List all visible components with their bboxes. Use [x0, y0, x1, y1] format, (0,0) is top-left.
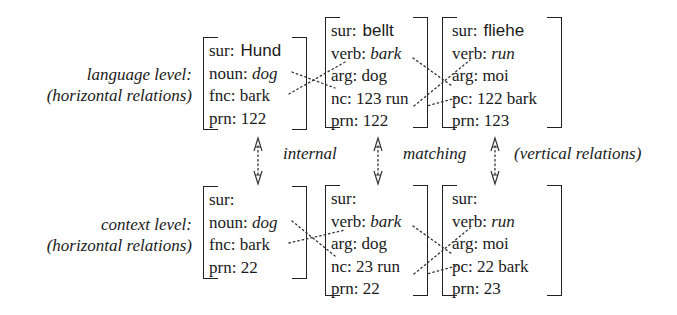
- dotted-link-fnc-verb: [289, 62, 345, 94]
- arrow-up-icon: [374, 138, 382, 151]
- dotted-link-ctx-nc-verb: [414, 228, 470, 274]
- relations-overlay: [0, 0, 677, 315]
- arrow-up-icon: [254, 138, 262, 151]
- dotted-link-verb-arg: [413, 58, 452, 86]
- dotted-link-ctx-noun-arg: [292, 221, 335, 256]
- dotted-link-ctx-verb-arg: [413, 226, 452, 254]
- arrow-up-icon: [491, 138, 499, 151]
- dotted-link-ctx-pc-nc: [427, 266, 456, 274]
- dotted-link-nc-verb: [414, 60, 470, 106]
- dotted-link-pc-nc: [427, 98, 456, 106]
